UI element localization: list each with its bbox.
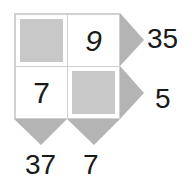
row-0-clue: 35 — [147, 25, 178, 53]
cell-value: 7 — [33, 76, 50, 110]
cell-r1c1-shaded[interactable] — [68, 67, 119, 118]
row-1-clue: 5 — [155, 85, 171, 113]
col-1-clue: 7 — [83, 151, 99, 179]
col-clue-arrows — [14, 119, 120, 148]
row-1-arrow-icon — [120, 66, 144, 119]
cell-r1c0[interactable]: 7 — [16, 67, 67, 118]
cell-r0c1[interactable]: 9 — [68, 15, 119, 66]
col-0-arrow-icon — [14, 119, 67, 145]
cell-value: 9 — [85, 24, 102, 58]
col-1-arrow-icon — [67, 119, 120, 145]
puzzle-grid: 9 7 — [14, 13, 120, 119]
col-0-clue: 37 — [25, 151, 56, 179]
row-clue-arrows — [120, 13, 147, 119]
cell-r0c0-shaded[interactable] — [16, 15, 67, 66]
row-0-arrow-icon — [120, 13, 144, 66]
